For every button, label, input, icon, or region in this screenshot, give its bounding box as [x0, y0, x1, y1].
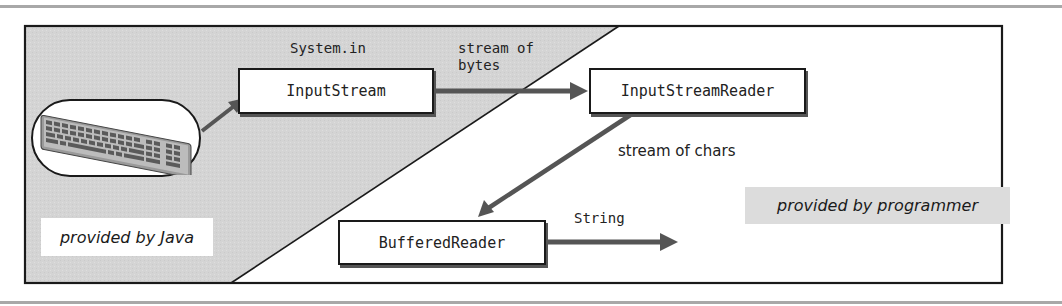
bufferedreader-label: BufferedReader: [379, 234, 505, 252]
provided-by-programmer-tag: provided by programmer: [745, 187, 1010, 224]
keyboard-source: [31, 99, 201, 177]
inputstreamreader-label: InputStreamReader: [621, 82, 775, 100]
stream-of-chars-label: stream of chars: [618, 143, 736, 160]
string-label: String: [574, 210, 625, 227]
inputstream-label: InputStream: [286, 82, 385, 100]
provided-by-java-tag: provided by Java: [41, 218, 213, 256]
inputstream-node: InputStream: [238, 68, 434, 114]
system-in-caption: System.in: [290, 40, 366, 57]
bufferedreader-node: BufferedReader: [338, 220, 546, 265]
keyboard-icon: [33, 101, 199, 175]
stream-of-bytes-label: stream of bytes: [458, 40, 534, 74]
inputstreamreader-node: InputStreamReader: [589, 68, 806, 114]
